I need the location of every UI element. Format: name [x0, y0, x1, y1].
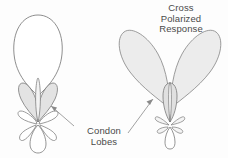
callout-line-2: Lobes [72, 137, 136, 148]
right-back-lobe [165, 127, 175, 149]
right-minor-lobe-neck-right [172, 127, 183, 133]
right-minor-lobe-right [171, 117, 185, 125]
right-minor-lobe-left [155, 117, 169, 125]
left-pattern-group [14, 15, 63, 153]
diagram-canvas: Cross Polarized Response Condon Lobes [0, 0, 228, 158]
title-line-3: Response [141, 24, 221, 35]
left-center-axis-lobe [36, 78, 41, 122]
right-center-axis-lobe [169, 82, 172, 122]
condon-lobes-callout-label: Condon Lobes [72, 126, 136, 147]
cross-polarized-response-title: Cross Polarized Response [141, 3, 221, 35]
leader-arrowhead-right [147, 99, 154, 105]
right-main-lobe-right [171, 30, 221, 108]
right-main-lobe-left [119, 30, 169, 108]
right-minor-lobe-neck-left [157, 127, 168, 133]
